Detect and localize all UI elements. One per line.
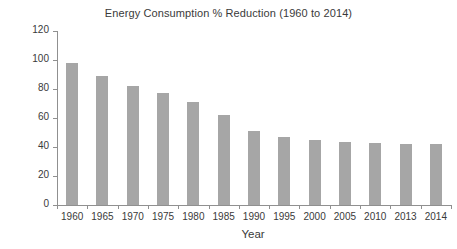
bar	[66, 63, 78, 205]
x-tick-label: 1985	[209, 211, 239, 222]
bar-chart: Energy Consumption % Reduction (1960 to …	[0, 0, 457, 249]
x-tick-mark	[178, 205, 179, 209]
x-tick-label: 2005	[330, 211, 360, 222]
x-tick-label: 2000	[299, 211, 329, 222]
x-tick-mark	[148, 205, 149, 209]
x-tick-mark	[421, 205, 422, 209]
y-tick-label: 60	[38, 111, 49, 122]
bar	[218, 115, 230, 205]
chart-title: Energy Consumption % Reduction (1960 to …	[0, 7, 457, 19]
x-tick-label: 1970	[118, 211, 148, 222]
x-tick-mark	[299, 205, 300, 209]
x-tick-mark	[239, 205, 240, 209]
bar	[309, 140, 321, 205]
x-axis-line	[57, 205, 451, 206]
x-tick-mark	[390, 205, 391, 209]
x-tick-label: 2010	[360, 211, 390, 222]
bar	[248, 131, 260, 205]
x-tick-mark	[118, 205, 119, 209]
x-tick-mark	[87, 205, 88, 209]
x-tick-mark	[330, 205, 331, 209]
y-tick-label: 20	[38, 169, 49, 180]
bars-layer	[57, 31, 451, 205]
bar	[157, 93, 169, 205]
y-tick-label: 40	[38, 140, 49, 151]
x-tick-mark	[269, 205, 270, 209]
x-tick-mark	[57, 205, 58, 209]
bar	[96, 76, 108, 205]
bar	[187, 102, 199, 205]
bar	[278, 137, 290, 205]
bar	[369, 143, 381, 205]
x-tick-label: 2013	[390, 211, 420, 222]
y-tick-label: 120	[32, 24, 49, 35]
x-tick-label: 1965	[87, 211, 117, 222]
bar	[127, 86, 139, 205]
x-tick-label: 1980	[178, 211, 208, 222]
x-tick-label: 1975	[148, 211, 178, 222]
y-tick-label: 0	[43, 198, 49, 209]
bar	[339, 142, 351, 205]
x-tick-label: 1960	[57, 211, 87, 222]
x-tick-label: 1995	[269, 211, 299, 222]
y-tick-label: 100	[32, 53, 49, 64]
x-tick-label: 2014	[421, 211, 451, 222]
x-axis-title: Year	[55, 228, 451, 240]
x-tick-mark	[209, 205, 210, 209]
x-tick-label: 1990	[239, 211, 269, 222]
y-tick-label: 80	[38, 82, 49, 93]
bar	[400, 144, 412, 205]
x-tick-mark	[360, 205, 361, 209]
x-tick-mark	[451, 205, 452, 209]
bar	[430, 144, 442, 205]
